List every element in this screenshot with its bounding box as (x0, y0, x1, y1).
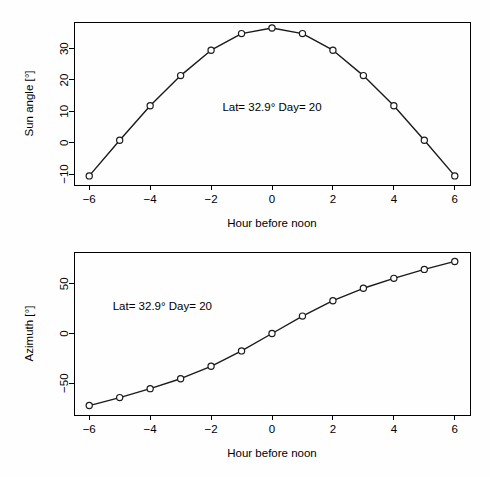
x-tick-label: 6 (452, 423, 458, 435)
x-axis-title: Hour before noon (227, 217, 317, 229)
data-point-marker (421, 137, 427, 143)
data-point-marker (117, 137, 123, 143)
data-point-marker (391, 275, 397, 281)
data-point-marker (391, 103, 397, 109)
x-tick-label: 2 (330, 423, 336, 435)
y-tick-label: −50 (58, 373, 70, 393)
data-point-marker (330, 298, 336, 304)
y-tick-label: 50 (58, 277, 70, 290)
data-point-marker (238, 30, 244, 36)
y-tick-label: −10 (58, 164, 70, 184)
data-point-marker (208, 47, 214, 53)
x-axis-title: Hour before noon (227, 447, 317, 459)
data-point-marker (299, 30, 305, 36)
data-point-marker (269, 25, 275, 31)
x-tick-label: 0 (269, 423, 275, 435)
plot-annotation: Lat= 32.9° Day= 20 (222, 101, 321, 113)
data-point-marker (178, 376, 184, 382)
data-point-marker (86, 402, 92, 408)
x-tick-label: 2 (330, 193, 336, 205)
y-tick-label: 0 (58, 330, 70, 336)
data-point-marker (147, 386, 153, 392)
data-point-marker (452, 258, 458, 264)
x-tick-label: 4 (391, 193, 398, 205)
x-tick-label: −2 (205, 423, 218, 435)
x-tick-label: −6 (83, 193, 96, 205)
x-tick-label: −6 (83, 423, 96, 435)
data-point-marker (269, 330, 275, 336)
data-point-marker (86, 173, 92, 179)
data-point-marker (299, 313, 305, 319)
azimuth-plot-panel: −6−4−20246−50050Hour before noonAzimuth … (0, 238, 490, 477)
figure-canvas: −6−4−20246−100102030Hour before noonSun … (0, 0, 490, 477)
data-point-marker (421, 266, 427, 272)
data-point-marker (117, 395, 123, 401)
azimuth-chart: −6−4−20246−50050Hour before noonAzimuth … (0, 238, 490, 477)
y-tick-label: 30 (58, 42, 70, 55)
sun-angle-chart: −6−4−20246−100102030Hour before noonSun … (0, 0, 490, 238)
sun-angle-plot-panel: −6−4−20246−100102030Hour before noonSun … (0, 0, 490, 238)
x-tick-label: −2 (205, 193, 218, 205)
data-point-marker (360, 73, 366, 79)
x-tick-label: −4 (144, 193, 158, 205)
y-tick-label: 10 (58, 105, 70, 118)
x-tick-label: 0 (269, 193, 275, 205)
data-point-marker (147, 103, 153, 109)
x-tick-label: 6 (452, 193, 458, 205)
data-point-marker (360, 285, 366, 291)
data-point-marker (330, 47, 336, 53)
plot-annotation: Lat= 32.9° Day= 20 (113, 300, 212, 312)
data-point-marker (452, 173, 458, 179)
y-tick-label: 0 (58, 139, 70, 145)
y-tick-label: 20 (58, 74, 70, 87)
data-point-marker (238, 348, 244, 354)
data-point-marker (178, 73, 184, 79)
data-point-marker (208, 363, 214, 369)
x-tick-label: −4 (144, 423, 158, 435)
x-tick-label: 4 (391, 423, 398, 435)
y-axis-title: Sun angle [°] (23, 71, 35, 137)
y-axis-title: Azimuth [°] (23, 306, 35, 362)
